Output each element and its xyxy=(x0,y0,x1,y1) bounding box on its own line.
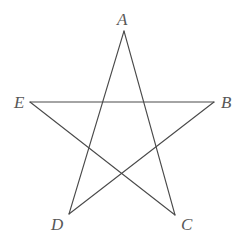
vertex-label-c: C xyxy=(181,216,192,233)
edge-A-C xyxy=(124,31,175,215)
edge-B-D xyxy=(69,102,214,214)
edge-D-A xyxy=(69,31,124,214)
star-edge-group xyxy=(30,31,214,215)
pentagram-figure: A B C D E xyxy=(0,0,240,243)
edge-C-E xyxy=(30,102,175,215)
vertex-label-e: E xyxy=(14,94,24,111)
vertex-label-b: B xyxy=(221,94,231,111)
vertex-label-a: A xyxy=(117,11,127,28)
vertex-label-d: D xyxy=(51,216,63,233)
pentagram-drawing xyxy=(0,0,240,243)
